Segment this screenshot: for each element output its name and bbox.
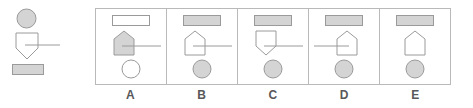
answer-options-panel [95, 8, 451, 85]
option-d-pentagon-up-unfilled-with-line-left [313, 30, 375, 56]
option-a-rectangle-unfilled [112, 15, 150, 26]
option-e-rectangle-filled [396, 15, 434, 26]
option-cell-a[interactable] [96, 9, 167, 84]
option-e-circle-filled [405, 59, 425, 79]
option-label-d: D [309, 86, 380, 106]
option-b-rectangle-filled [183, 15, 221, 26]
option-label-e: E [380, 86, 451, 106]
option-cell-d[interactable] [309, 9, 380, 84]
option-label-a: A [95, 86, 166, 106]
option-a-circle-unfilled [121, 59, 141, 79]
option-c-rectangle-filled [254, 15, 292, 26]
matrix-reasoning-puzzle: A B C D E [0, 0, 473, 108]
stimulus-figure [0, 0, 88, 88]
stimulus-shield-down-with-line-right [15, 32, 61, 60]
option-d-circle-filled [334, 59, 354, 79]
option-a-pentagon-up-filled-with-line-right [100, 30, 162, 56]
option-cell-b[interactable] [167, 9, 238, 84]
option-labels-row: A B C D E [95, 86, 451, 106]
option-label-c: C [237, 86, 308, 106]
option-b-circle-filled [192, 59, 212, 79]
option-label-b: B [166, 86, 237, 106]
option-c-shield-down-unfilled-with-line-right [242, 30, 304, 56]
stimulus-circle-filled [16, 8, 37, 29]
option-cell-c[interactable] [238, 9, 309, 84]
stimulus-rectangle-filled [12, 64, 44, 75]
option-d-rectangle-filled [325, 15, 363, 26]
option-e-pentagon-up-unfilled-no-line [384, 30, 446, 56]
option-b-pentagon-up-unfilled-with-line-right [171, 30, 233, 56]
option-c-circle-filled [263, 59, 283, 79]
option-cell-e[interactable] [380, 9, 450, 84]
